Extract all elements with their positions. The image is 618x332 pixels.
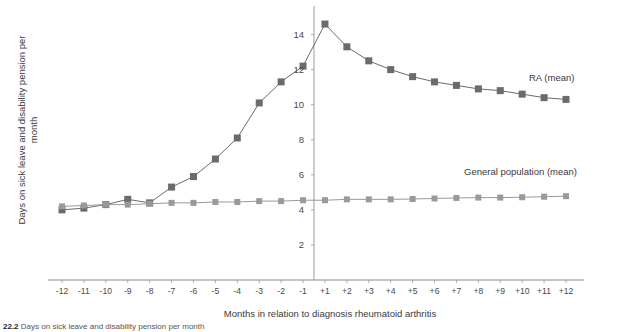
data-point-marker: [300, 197, 306, 203]
data-point-marker: [541, 194, 547, 200]
figure-caption: 22.2 Days on sick leave and disability p…: [3, 322, 303, 332]
data-point-marker: [563, 96, 570, 103]
data-point-marker: [147, 201, 153, 207]
data-point-marker: [212, 199, 218, 205]
data-point-marker: [256, 198, 262, 204]
data-point-marker: [388, 196, 394, 202]
data-point-marker: [321, 21, 328, 28]
x-axis-tick-label: +12: [553, 286, 579, 296]
data-point-marker: [168, 184, 175, 191]
y-axis-tick-label: 14: [280, 29, 304, 40]
data-point-marker: [541, 94, 548, 101]
general-population-series-label: General population (mean): [464, 166, 577, 177]
data-point-marker: [59, 203, 65, 209]
data-point-marker: [365, 57, 372, 64]
data-point-marker: [125, 202, 131, 208]
data-point-marker: [343, 43, 350, 50]
ra-series-label: RA (mean): [529, 72, 574, 83]
data-point-marker: [278, 78, 285, 85]
data-point-marker: [103, 202, 109, 208]
y-axis-tick-label: 4: [280, 204, 304, 215]
data-point-marker: [431, 78, 438, 85]
data-point-marker: [212, 156, 219, 163]
data-point-marker: [497, 195, 503, 201]
data-point-marker: [344, 196, 350, 202]
data-point-marker: [234, 199, 240, 205]
y-axis-tick-label: 2: [280, 239, 304, 250]
y-axis-tick-label: 12: [280, 64, 304, 75]
data-point-marker: [563, 193, 569, 199]
data-point-marker: [190, 173, 197, 180]
y-axis-tick-label: 6: [280, 169, 304, 180]
data-point-marker: [169, 200, 175, 206]
data-point-marker: [410, 196, 416, 202]
data-point-marker: [256, 99, 263, 106]
x-axis-title: Months in relation to diagnosis rheumato…: [60, 308, 600, 319]
data-point-marker: [366, 196, 372, 202]
data-point-marker: [322, 197, 328, 203]
data-point-marker: [81, 202, 87, 208]
data-point-marker: [497, 87, 504, 94]
figure-caption-number: 22.2: [3, 322, 19, 331]
data-point-marker: [475, 85, 482, 92]
figure-caption-text: Days on sick leave and disability pensio…: [21, 322, 205, 331]
axes-group: [48, 6, 584, 283]
data-point-marker: [387, 66, 394, 73]
data-point-marker: [475, 195, 481, 201]
data-point-marker: [453, 82, 460, 89]
y-axis-tick-label: 10: [280, 99, 304, 110]
y-axis-title: Days on sick leave and disability pensio…: [16, 20, 40, 240]
data-point-marker: [190, 200, 196, 206]
data-point-marker: [234, 134, 241, 141]
data-point-marker: [519, 91, 526, 98]
y-axis-tick-label: 8: [280, 134, 304, 145]
data-point-marker: [409, 73, 416, 80]
data-point-marker: [432, 195, 438, 201]
chart-figure: Days on sick leave and disability pensio…: [0, 0, 618, 332]
data-point-marker: [453, 195, 459, 201]
data-point-marker: [519, 194, 525, 200]
